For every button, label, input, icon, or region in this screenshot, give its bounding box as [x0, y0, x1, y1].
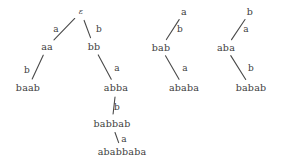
tree-edge	[115, 132, 119, 142]
tree-node: a	[181, 7, 187, 17]
tree-edge	[165, 56, 179, 80]
edge-label: a	[53, 25, 58, 34]
tree-node: babab	[236, 83, 267, 93]
edge-label: a	[121, 135, 126, 144]
tree-node: aa	[41, 42, 53, 52]
tree-edge	[98, 55, 111, 79]
edge-label: a	[182, 64, 187, 73]
tree-edges-layer	[0, 0, 284, 162]
tree-node: bb	[88, 42, 101, 52]
tree-node: ε	[79, 7, 84, 17]
derivation-tree-figure: εaabaabbbabbababbabababbabaababababababa…	[0, 0, 284, 162]
edge-label: a	[243, 25, 248, 34]
tree-node: babbab	[94, 119, 131, 129]
tree-node: ababbaba	[98, 147, 147, 157]
tree-node: b	[247, 7, 253, 17]
tree-node: ababa	[169, 83, 199, 93]
edge-label: b	[114, 103, 120, 112]
tree-node: abba	[104, 83, 128, 93]
edge-label: b	[24, 66, 30, 75]
edge-label: b	[177, 25, 183, 34]
tree-node: baab	[16, 83, 40, 93]
tree-edge	[84, 20, 90, 37]
tree-node: aba	[217, 43, 235, 53]
edge-label: b	[96, 25, 102, 34]
edge-label: b	[248, 64, 254, 73]
edge-label: a	[114, 64, 119, 73]
tree-node: bab	[152, 43, 170, 53]
tree-edge	[32, 55, 43, 79]
tree-edge	[231, 56, 246, 80]
